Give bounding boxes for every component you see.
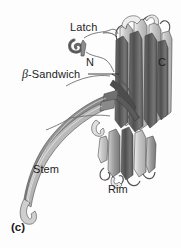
- panel-label: (c): [11, 221, 25, 233]
- leader-line-latch: [103, 33, 117, 37]
- label-latch: Latch: [70, 21, 97, 33]
- lower-left-loop-bundle: [92, 120, 108, 163]
- label-n-terminus: N: [86, 56, 94, 68]
- label-sandwich-suffix: -Sandwich: [28, 68, 80, 80]
- label-stem: Stem: [33, 163, 59, 175]
- label-beta-sandwich: β-Sandwich: [22, 68, 80, 80]
- ribbon-diagram-graphic: [0, 0, 181, 248]
- protein-structure-figure: Latch N C β-Sandwich Stem Rim (c): [0, 0, 181, 248]
- latch-motif: [70, 40, 86, 56]
- label-rim: Rim: [108, 183, 128, 195]
- label-c-terminus: C: [158, 56, 166, 68]
- rim-subdomain: [108, 127, 156, 180]
